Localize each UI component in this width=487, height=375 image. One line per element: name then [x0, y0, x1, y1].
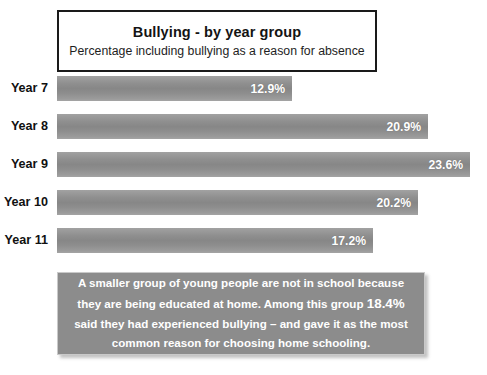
bar-year-11: 17.2%	[57, 228, 373, 253]
bar-year-10: 20.2%	[57, 190, 418, 215]
bar-value-year-9: 23.6%	[428, 158, 470, 172]
footnote-panel: A smaller group of young people are not …	[57, 272, 425, 355]
footnote-tail-text: said they had experienced bullying – and…	[74, 317, 408, 349]
category-label-year-10: Year 10	[0, 190, 48, 215]
bar-year-8: 20.9%	[57, 114, 428, 139]
bar-value-year-8: 20.9%	[386, 120, 428, 134]
chart-title-card: Bullying - by year group Percentage incl…	[57, 10, 377, 72]
bar-value-year-7: 12.9%	[250, 82, 292, 96]
bullying-by-year-group-chart: Bullying - by year group Percentage incl…	[0, 0, 487, 375]
bar-year-9: 23.6%	[57, 152, 470, 177]
footnote-highlight-value: 18.4%	[367, 296, 405, 311]
footnote-lead-text: A smaller group of young people are not …	[77, 276, 404, 310]
bar-row: Year 9 23.6%	[0, 152, 487, 177]
chart-plot-area: Year 7 12.9% Year 8 20.9% Year 9 23.6% Y…	[0, 76, 487, 262]
bar-row: Year 10 20.2%	[0, 190, 487, 215]
bar-row: Year 11 17.2%	[0, 228, 487, 253]
category-label-year-7: Year 7	[0, 76, 48, 101]
bar-year-7: 12.9%	[57, 76, 292, 101]
category-label-year-9: Year 9	[0, 152, 48, 177]
footnote-text: A smaller group of young people are not …	[72, 274, 410, 352]
bar-row: Year 7 12.9%	[0, 76, 487, 101]
chart-subtitle: Percentage including bullying as a reaso…	[69, 44, 364, 58]
bar-value-year-10: 20.2%	[376, 196, 418, 210]
bar-value-year-11: 17.2%	[331, 234, 373, 248]
category-label-year-8: Year 8	[0, 114, 48, 139]
category-label-year-11: Year 11	[0, 228, 48, 253]
page-title: Bullying - by year group	[133, 24, 301, 40]
bar-row: Year 8 20.9%	[0, 114, 487, 139]
